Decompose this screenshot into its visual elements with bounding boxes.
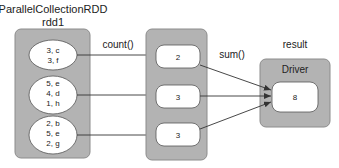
result-label: result: [283, 39, 308, 50]
source-partition-2-line-2: 4, d: [46, 89, 59, 98]
source-partition-1-line-1: 3, c: [47, 46, 60, 55]
driver-title: Driver: [282, 64, 309, 75]
source-rdd-title: ParallelCollectionRDD: [0, 3, 107, 15]
source-rdd-name: rdd1: [42, 16, 64, 28]
source-partition-3-line-3: 2, g: [46, 139, 59, 148]
count-partition-2-value: 3: [176, 93, 181, 102]
sum-operation-label: sum(): [219, 49, 245, 60]
count-partition-3-value: 3: [176, 131, 181, 140]
source-partition-3-line-1: 2, b: [46, 119, 60, 128]
source-partition-1: [29, 40, 77, 70]
count-operation-label: count(): [102, 39, 133, 50]
source-partition-3-line-2: 5, e: [46, 129, 60, 138]
source-partition-1-line-2: 3, f: [47, 56, 59, 65]
diagram-canvas: ParallelCollectionRDD rdd1 3, c 3, f 5, …: [0, 0, 339, 168]
source-partition-2-line-3: 1, h: [46, 99, 59, 108]
source-partition-2-line-1: 5, e: [46, 79, 60, 88]
count-partition-1-value: 2: [176, 53, 181, 62]
driver-result-value: 8: [293, 93, 298, 102]
